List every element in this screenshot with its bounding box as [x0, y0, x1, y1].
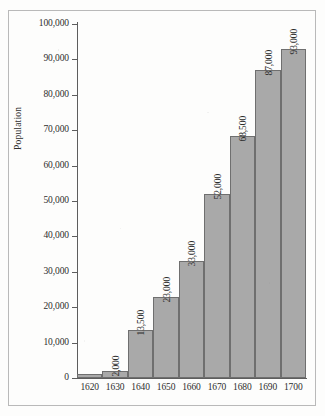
y-axis-tick-label: 100,000	[39, 19, 69, 29]
y-axis-tick-label: 90,000	[43, 54, 69, 64]
bar-value-label: 13,500	[137, 310, 147, 336]
y-axis-tick-label: 40,000	[43, 231, 69, 241]
y-axis-tick-label: 70,000	[43, 125, 69, 135]
y-axis-tick	[72, 378, 77, 379]
y-axis-tick-label: 20,000	[43, 302, 69, 312]
x-axis-tick-label: 1620	[77, 382, 102, 392]
x-axis-tick-label: 1690	[255, 382, 280, 392]
x-axis-tick-label: 1670	[204, 382, 229, 392]
bar[interactable]	[230, 136, 255, 378]
bar[interactable]	[179, 261, 204, 378]
y-axis-tick-label: 80,000	[43, 90, 69, 100]
bar[interactable]	[281, 49, 306, 378]
x-axis-tick-label: 1650	[153, 382, 178, 392]
bar-value-label: 68,500	[239, 115, 249, 141]
bar-value-label: 33,000	[188, 241, 198, 267]
y-axis-title: Population	[13, 30, 23, 150]
bar-value-label: 52,000	[213, 174, 223, 200]
y-axis-tick-label: 0	[64, 373, 69, 383]
y-axis-tick-label: 50,000	[43, 196, 69, 206]
bar[interactable]	[77, 374, 102, 378]
bar-value-label: 93,000	[290, 29, 300, 55]
bar-value-label: 23,000	[162, 277, 172, 303]
bar-value-label: 2,000	[111, 356, 121, 377]
x-axis-tick-label: 1640	[128, 382, 153, 392]
bar[interactable]	[153, 297, 178, 378]
x-axis-tick-label: 1700	[281, 382, 306, 392]
bar-value-label: 87,000	[264, 50, 274, 76]
chart-page: Population 010,00020,00030,00040,00050,0…	[0, 0, 325, 416]
plot-area	[77, 24, 306, 378]
x-axis-tick-label: 1630	[102, 382, 127, 392]
y-axis-tick-label: 30,000	[43, 267, 69, 277]
x-axis-tick-label: 1680	[230, 382, 255, 392]
x-axis-line	[77, 378, 307, 379]
x-axis-tick-label: 1660	[179, 382, 204, 392]
bar[interactable]	[204, 194, 229, 378]
bar[interactable]	[128, 330, 153, 378]
y-axis-tick-label: 60,000	[43, 161, 69, 171]
bar[interactable]	[255, 70, 280, 378]
y-axis-tick-label: 10,000	[43, 338, 69, 348]
